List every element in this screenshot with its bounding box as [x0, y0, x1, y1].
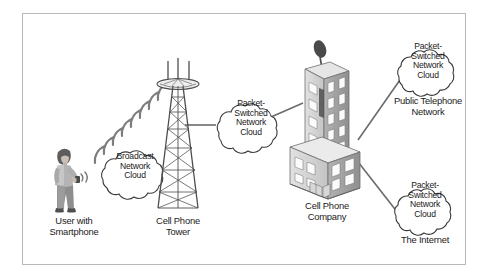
packet-switched-network-cloud-pstn-label: Packet- Switched Network Cloud	[396, 42, 460, 81]
public-telephone-network-caption: Public Telephone Network	[376, 96, 480, 117]
cell-tower-icon	[157, 58, 199, 208]
cell-phone-company-caption: Cell Phone Company	[286, 201, 368, 222]
network-diagram-figure: Broadcast Network Cloud User with Smartp…	[0, 0, 488, 279]
packet-switched-network-cloud-middle-label: Packet- Switched Network Cloud	[214, 99, 288, 138]
broadcast-network-cloud-label: Broadcast Network Cloud	[98, 152, 172, 181]
the-internet-caption: The Internet	[383, 235, 467, 246]
packet-switched-network-cloud-internet-label: Packet- Switched Network Cloud	[393, 181, 457, 220]
office-building-icon	[290, 39, 360, 199]
connection-lines	[185, 77, 402, 213]
user-with-smartphone-caption: User with Smartphone	[24, 216, 124, 237]
person-with-smartphone-icon	[54, 149, 87, 213]
cell-phone-tower-caption: Cell Phone Tower	[140, 216, 216, 237]
